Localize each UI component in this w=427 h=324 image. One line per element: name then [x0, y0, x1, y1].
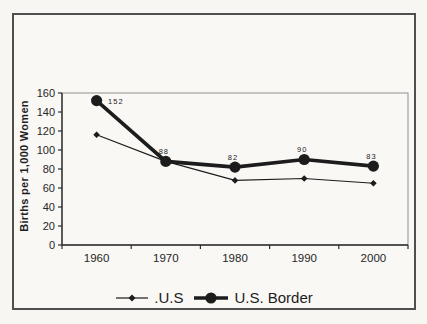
- legend-label-us-border: U.S. Border: [234, 289, 312, 306]
- x-tick-label: 1960: [84, 252, 110, 264]
- data-point-1: [368, 161, 379, 172]
- legend-item-us: .U.S: [115, 289, 183, 306]
- data-point-1: [91, 95, 102, 106]
- data-label-1: 152: [108, 97, 124, 106]
- y-tick-label: 140: [37, 106, 55, 118]
- legend-item-us-border: U.S. Border: [193, 289, 312, 306]
- y-tick-label: 40: [43, 201, 55, 213]
- x-tick-label: 1980: [222, 252, 248, 264]
- chart-frame: Births per 1,000 Women 02040608010012014…: [12, 13, 416, 310]
- data-point-0: [93, 132, 100, 139]
- plot-area: 0204060801001201401601960197019801990200…: [14, 15, 414, 308]
- data-point-1: [299, 154, 310, 165]
- y-tick-label: 0: [49, 239, 55, 251]
- data-point-1: [160, 156, 171, 167]
- legend: .U.S U.S. Border: [14, 289, 414, 306]
- data-label-1: 83: [366, 152, 376, 161]
- us-series-marker-icon: [115, 291, 149, 305]
- x-tick-label: 1970: [153, 252, 179, 264]
- data-label-1: 88: [159, 147, 169, 156]
- data-point-0: [301, 175, 308, 182]
- y-tick-label: 60: [43, 182, 55, 194]
- y-tick-label: 100: [37, 144, 55, 156]
- data-point-1: [229, 162, 240, 173]
- data-label-1: 90: [297, 145, 307, 154]
- data-label-1: 82: [228, 153, 238, 162]
- x-tick-label: 1990: [291, 252, 317, 264]
- y-tick-label: 160: [37, 87, 55, 99]
- y-tick-label: 120: [37, 125, 55, 137]
- us-border-series-marker-icon: [193, 291, 229, 305]
- data-point-0: [370, 180, 377, 187]
- data-point-0: [232, 177, 239, 184]
- y-tick-label: 80: [43, 163, 55, 175]
- scanned-page: Births per 1,000 Women 02040608010012014…: [0, 0, 427, 324]
- y-tick-label: 20: [43, 220, 55, 232]
- legend-label-us: .U.S: [154, 289, 183, 306]
- x-tick-label: 2000: [361, 252, 387, 264]
